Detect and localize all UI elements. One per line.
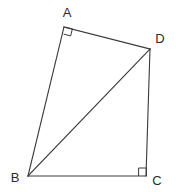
geometry-figure: A D B C (0, 0, 176, 192)
edge-a-d (64, 27, 150, 49)
vertex-label-d: D (155, 31, 164, 46)
edge-b-d-diagonal (28, 49, 150, 176)
vertex-label-b: B (11, 170, 20, 185)
vertex-label-c: C (152, 173, 161, 188)
right-angle-marker-c (139, 168, 147, 176)
edge-d-c (146, 49, 150, 176)
edge-b-a (28, 27, 64, 176)
geometry-canvas: A D B C (0, 0, 176, 192)
vertex-label-a: A (63, 5, 72, 20)
